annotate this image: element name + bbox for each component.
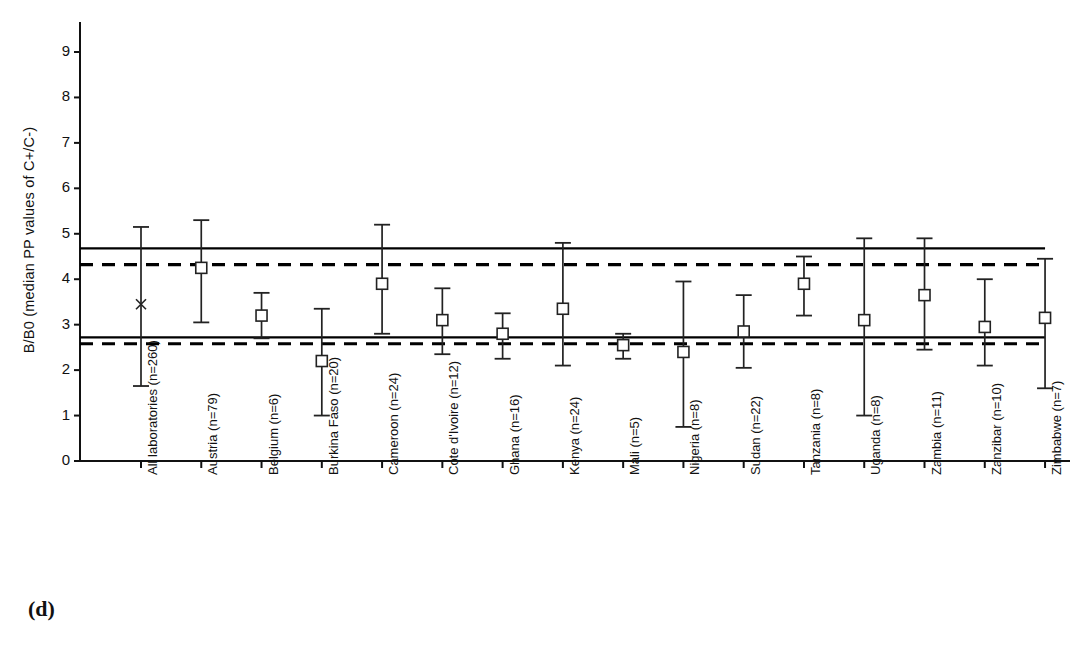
- scatter-error-plot: [0, 0, 1081, 658]
- x-tick-label: Kenya (n=24): [568, 397, 582, 475]
- marker-open-square: [377, 278, 388, 289]
- data-point: [736, 295, 752, 368]
- data-point: [193, 220, 209, 322]
- marker-open-square: [497, 328, 508, 339]
- y-tick-label: 0: [48, 451, 70, 468]
- marker-open-square: [437, 315, 448, 326]
- marker-open-square: [919, 290, 930, 301]
- x-tick-label: Zambia (n=11): [930, 391, 944, 475]
- panel-letter: (d): [28, 596, 55, 622]
- x-tick-label: Burkina Faso (n=20): [327, 357, 341, 475]
- y-tick-label: 5: [48, 224, 70, 241]
- x-tick-label: Nigeria (n=8): [688, 399, 702, 475]
- data-point: [374, 225, 390, 334]
- y-tick-label: 4: [48, 269, 70, 286]
- x-tick-label: Ghana (n=16): [508, 394, 522, 475]
- x-tick-label: Cameroon (n=24): [387, 373, 401, 475]
- y-tick-label: 6: [48, 178, 70, 195]
- y-tick-label: 1: [48, 406, 70, 423]
- figure-panel-d: B/B0 (median PP values of C+/C-) 0123456…: [0, 0, 1081, 658]
- y-tick-label: 2: [48, 360, 70, 377]
- marker-open-square: [979, 321, 990, 332]
- marker-open-square: [678, 346, 689, 357]
- marker-open-square: [738, 326, 749, 337]
- x-tick-label: Tanzania (n=8): [809, 389, 823, 475]
- data-point: [977, 279, 993, 365]
- data-point: [917, 238, 933, 349]
- marker-open-square: [1040, 312, 1051, 323]
- x-tick-label: Zanzibar (n=10): [990, 383, 1004, 475]
- y-tick-label: 9: [48, 42, 70, 59]
- marker-open-square: [618, 340, 629, 351]
- y-tick-label: 8: [48, 87, 70, 104]
- marker-open-square: [196, 262, 207, 273]
- marker-open-square: [798, 278, 809, 289]
- x-tick-label: Austria (n=79): [206, 393, 220, 475]
- x-tick-label: Sudan (n=22): [749, 396, 763, 475]
- x-tick-label: Zimbabwe (n=7): [1050, 381, 1064, 475]
- data-point: [1037, 259, 1053, 389]
- x-tick-label: Belgium (n=6): [267, 394, 281, 475]
- marker-open-square: [256, 310, 267, 321]
- x-tick-label: All laboratories (n=260): [146, 340, 160, 475]
- data-point: [495, 313, 511, 358]
- y-tick-label: 3: [48, 315, 70, 332]
- marker-open-square: [859, 315, 870, 326]
- y-tick-label: 7: [48, 133, 70, 150]
- data-point: [555, 243, 571, 366]
- x-tick-label: Cote d'Ivoire (n=12): [447, 361, 461, 475]
- x-tick-label: Mali (n=5): [628, 417, 642, 475]
- x-tick-label: Uganda (n=8): [869, 395, 883, 475]
- marker-open-square: [557, 303, 568, 314]
- data-point: [254, 293, 270, 338]
